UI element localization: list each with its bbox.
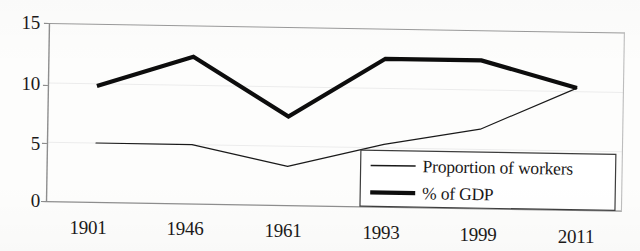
thin-line-swatch bbox=[371, 165, 416, 166]
chart-figure: 15 10 5 0 1901 1946 1961 1993 1999 2011 bbox=[0, 0, 640, 251]
plot-area: Proportion of workers % of GDP bbox=[0, 0, 640, 251]
legend-label-percent-of-gdp: % of GDP bbox=[422, 183, 494, 204]
right-spine bbox=[621, 33, 624, 212]
chart-legend[interactable]: Proportion of workers % of GDP bbox=[360, 150, 616, 210]
thick-line-swatch bbox=[370, 192, 415, 193]
legend-label-proportion-of-workers: Proportion of workers bbox=[422, 156, 573, 178]
series-line-percent-of-gdp bbox=[96, 54, 577, 121]
y-axis-line bbox=[46, 23, 49, 202]
